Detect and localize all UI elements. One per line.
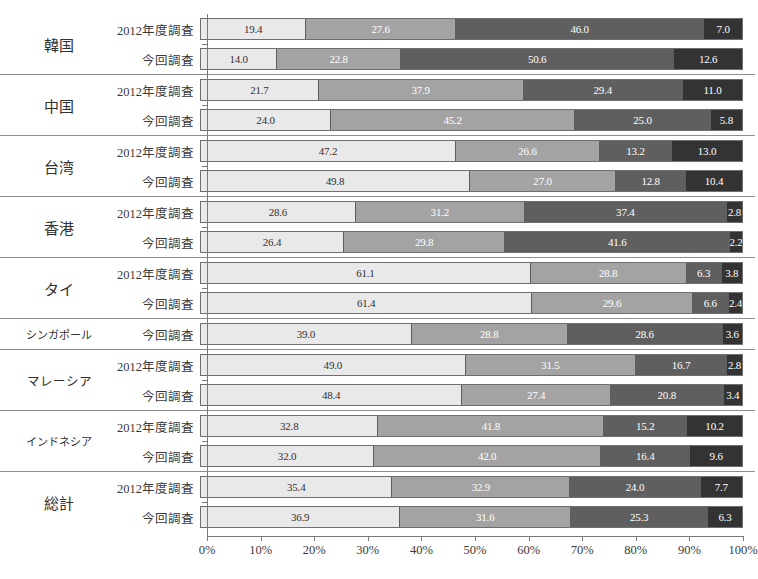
bar-segment[interactable]: 6.3 bbox=[707, 507, 742, 527]
x-axis-tick-label: 30% bbox=[356, 543, 379, 558]
x-axis-tick bbox=[314, 536, 315, 541]
bar-segment[interactable]: 41.8 bbox=[377, 416, 603, 436]
stacked-bar[interactable]: 47.226.613.213.0 bbox=[200, 140, 743, 162]
bar-segment-value: 6.3 bbox=[697, 267, 710, 279]
bar-segment[interactable]: 16.7 bbox=[635, 355, 726, 375]
y-axis-tick bbox=[202, 166, 207, 167]
bar-segment[interactable]: 31.2 bbox=[355, 202, 524, 222]
bar-segment-value: 2.2 bbox=[730, 236, 742, 248]
bar-segment[interactable]: 27.6 bbox=[305, 19, 454, 39]
bar-segment[interactable]: 37.9 bbox=[318, 80, 523, 100]
bar-segment[interactable]: 12.8 bbox=[615, 171, 685, 191]
bar-segment[interactable]: 22.8 bbox=[276, 49, 400, 69]
bar-segment[interactable]: 25.3 bbox=[570, 507, 707, 527]
bar-segment[interactable]: 47.2 bbox=[201, 141, 455, 161]
bar-segment[interactable]: 12.6 bbox=[673, 49, 742, 69]
x-axis-tick-label: 10% bbox=[249, 543, 272, 558]
bar-segment[interactable]: 16.4 bbox=[600, 446, 689, 466]
stacked-bar[interactable]: 61.429.66.62.4 bbox=[200, 292, 743, 314]
bar-segment[interactable]: 46.0 bbox=[455, 19, 703, 39]
stacked-bar[interactable]: 28.631.237.42.8 bbox=[200, 201, 743, 223]
bar-segment[interactable]: 35.4 bbox=[201, 477, 391, 497]
bar-segment[interactable]: 3.6 bbox=[722, 324, 742, 344]
stacked-bar[interactable]: 24.045.225.05.8 bbox=[200, 109, 743, 131]
bar-segment[interactable]: 49.8 bbox=[201, 171, 469, 191]
bar-segment[interactable]: 29.4 bbox=[523, 80, 682, 100]
bar-segment[interactable]: 21.7 bbox=[201, 80, 318, 100]
bar-segment[interactable]: 32.8 bbox=[201, 416, 377, 436]
bar-segment-value: 10.4 bbox=[705, 175, 723, 187]
bar-segment[interactable]: 28.6 bbox=[201, 202, 355, 222]
bar-segment[interactable]: 13.2 bbox=[599, 141, 671, 161]
bar-segment[interactable]: 36.9 bbox=[201, 507, 399, 527]
bar-segment[interactable]: 2.4 bbox=[728, 293, 742, 313]
bar-segment[interactable]: 2.8 bbox=[726, 202, 742, 222]
bar-segment[interactable]: 32.9 bbox=[391, 477, 569, 497]
stacked-bar[interactable]: 61.128.86.33.8 bbox=[200, 262, 743, 284]
category-label: 台湾 bbox=[0, 136, 108, 196]
bar-segment[interactable]: 2.2 bbox=[729, 232, 742, 252]
bar-segment[interactable]: 28.6 bbox=[567, 324, 722, 344]
bar-segment[interactable]: 9.6 bbox=[689, 446, 742, 466]
bar-segment[interactable]: 29.8 bbox=[343, 232, 504, 252]
stacked-bar[interactable]: 32.841.815.210.2 bbox=[200, 415, 743, 437]
bar-segment[interactable]: 20.8 bbox=[610, 385, 723, 405]
bar-segment[interactable]: 28.8 bbox=[411, 324, 567, 344]
x-axis-tick-label: 100% bbox=[728, 543, 757, 558]
bar-segment[interactable]: 6.3 bbox=[686, 263, 721, 283]
bar-segment-value: 2.4 bbox=[729, 297, 742, 309]
series-label: 今回調査 bbox=[108, 447, 200, 466]
bar-segment[interactable]: 24.0 bbox=[201, 110, 330, 130]
bar-segment[interactable]: 29.6 bbox=[531, 293, 691, 313]
stacked-bar[interactable]: 35.432.924.07.7 bbox=[200, 476, 743, 498]
bar-segment[interactable]: 6.6 bbox=[692, 293, 729, 313]
y-axis-tick bbox=[202, 441, 207, 442]
bar-segment[interactable]: 7.7 bbox=[700, 477, 742, 497]
bar-segment[interactable]: 41.6 bbox=[504, 232, 729, 252]
stacked-bar[interactable]: 19.427.646.07.0 bbox=[200, 18, 743, 40]
bar-segment[interactable]: 13.0 bbox=[671, 141, 742, 161]
stacked-bar[interactable]: 21.737.929.411.0 bbox=[200, 79, 743, 101]
bar-segment[interactable]: 24.0 bbox=[569, 477, 699, 497]
bar-segment[interactable]: 26.6 bbox=[455, 141, 599, 161]
stacked-bar[interactable]: 36.931.625.36.3 bbox=[200, 506, 743, 528]
x-axis-tick-label: 90% bbox=[678, 543, 701, 558]
bar-segment[interactable]: 7.0 bbox=[703, 19, 742, 39]
bar-segment[interactable]: 27.0 bbox=[469, 171, 615, 191]
bar-segment[interactable]: 10.2 bbox=[686, 416, 742, 436]
bar-segment-value: 49.8 bbox=[326, 175, 344, 187]
bar-segment[interactable]: 11.0 bbox=[682, 80, 742, 100]
bar-segment[interactable]: 31.6 bbox=[399, 507, 570, 527]
bar-segment[interactable]: 26.4 bbox=[201, 232, 343, 252]
bar-segment[interactable]: 27.4 bbox=[461, 385, 609, 405]
stacked-bar[interactable]: 32.042.016.49.6 bbox=[200, 445, 743, 467]
bar-segment[interactable]: 19.4 bbox=[201, 19, 305, 39]
stacked-bar[interactable]: 39.028.828.63.6 bbox=[200, 323, 743, 345]
bar-segment[interactable]: 32.0 bbox=[201, 446, 373, 466]
bar-segment[interactable]: 42.0 bbox=[373, 446, 600, 466]
bar-segment[interactable]: 3.4 bbox=[723, 385, 742, 405]
bar-segment[interactable]: 15.2 bbox=[603, 416, 686, 436]
bar-segment-value: 28.6 bbox=[269, 206, 287, 218]
bar-segment[interactable]: 10.4 bbox=[685, 171, 742, 191]
bar-segment[interactable]: 48.4 bbox=[201, 385, 461, 405]
bar-segment[interactable]: 5.8 bbox=[710, 110, 742, 130]
stacked-bar[interactable]: 48.427.420.83.4 bbox=[200, 384, 743, 406]
stacked-bar[interactable]: 14.022.850.612.6 bbox=[200, 48, 743, 70]
bar-segment[interactable]: 2.8 bbox=[726, 355, 742, 375]
bar-segment[interactable]: 37.4 bbox=[524, 202, 726, 222]
bar-segment[interactable]: 39.0 bbox=[201, 324, 411, 344]
bar-segment[interactable]: 45.2 bbox=[330, 110, 574, 130]
stacked-bar[interactable]: 49.827.012.810.4 bbox=[200, 170, 743, 192]
bar-segment[interactable]: 28.8 bbox=[530, 263, 686, 283]
stacked-bar[interactable]: 49.031.516.72.8 bbox=[200, 354, 743, 376]
bar-segment[interactable]: 50.6 bbox=[400, 49, 673, 69]
bar-segment[interactable]: 25.0 bbox=[574, 110, 710, 130]
stacked-bar[interactable]: 26.429.841.62.2 bbox=[200, 231, 743, 253]
bar-segment[interactable]: 14.0 bbox=[201, 49, 276, 69]
bar-segment[interactable]: 3.8 bbox=[721, 263, 742, 283]
bar-segment[interactable]: 61.1 bbox=[201, 263, 530, 283]
bar-segment[interactable]: 61.4 bbox=[201, 293, 531, 313]
bar-segment[interactable]: 49.0 bbox=[201, 355, 465, 375]
bar-segment[interactable]: 31.5 bbox=[465, 355, 635, 375]
